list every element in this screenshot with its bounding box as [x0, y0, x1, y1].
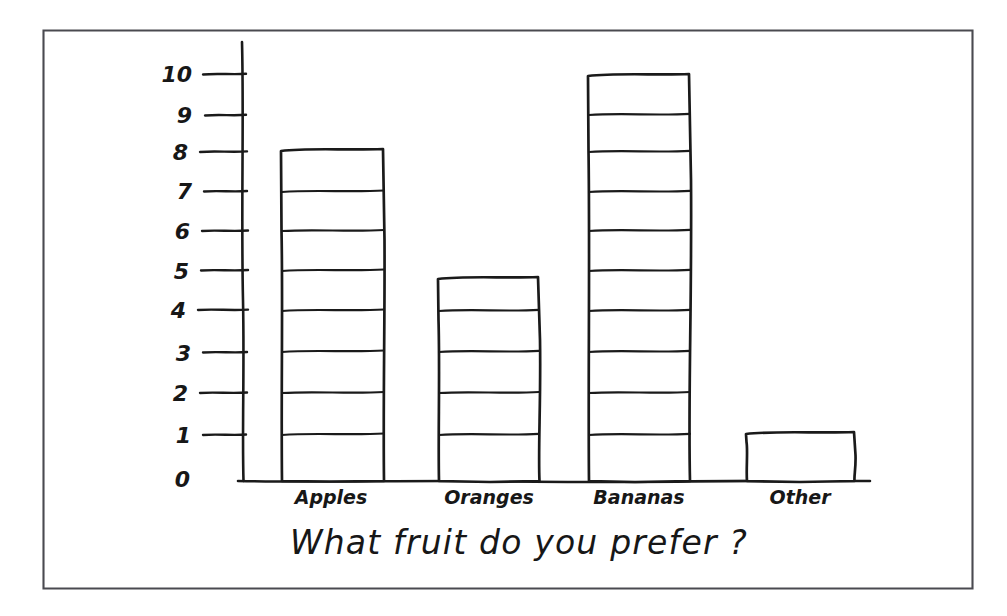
bar-segment-line: [589, 230, 690, 231]
bar-segment-line: [589, 191, 690, 192]
bar-segment-line: [282, 392, 384, 393]
bar-segment-line: [589, 270, 690, 271]
bar-segment-line: [439, 351, 539, 352]
y-tick-label-3: 3: [176, 341, 191, 366]
bar-segment-line: [439, 434, 539, 435]
y-tick-label-4: 4: [170, 298, 186, 323]
bar-segment-line: [282, 230, 384, 231]
category-label-oranges: Oranges: [444, 486, 534, 508]
bar-segment-line: [439, 310, 539, 311]
bar-outline-oranges: [438, 277, 540, 482]
y-tick-label-6: 6: [175, 219, 190, 244]
y-tick-label-9: 9: [177, 103, 192, 128]
y-tick-8: [200, 151, 247, 152]
y-tick-label-1: 1: [176, 423, 191, 448]
bar-segment-line: [589, 310, 690, 311]
bar-bananas: [588, 74, 691, 482]
category-label-apples: Apples: [293, 486, 368, 508]
bar-outline-apples: [281, 149, 385, 482]
chart-title: What fruit do you prefer ?: [290, 523, 748, 562]
bar-segment-line: [282, 191, 384, 193]
bar-outline-other: [746, 432, 856, 482]
y-tick-label-0: 0: [175, 467, 190, 492]
y-tick-7: [204, 191, 247, 192]
y-tick-2: [200, 393, 247, 394]
bar-oranges: [438, 277, 540, 482]
hand-drawn-bar-chart: 10 9 8 7 6 5 4 3 2 1 0: [0, 0, 1007, 616]
bar-outline-bananas: [588, 74, 691, 482]
bar-segment-line: [282, 310, 384, 312]
y-axis-line: [242, 42, 244, 481]
bar-segment-line: [589, 434, 690, 435]
bar-other: [746, 432, 856, 482]
bar-apples: [281, 149, 385, 482]
y-tick-3: [203, 352, 247, 353]
y-tick-5: [201, 270, 248, 271]
bar-segment-line: [589, 392, 690, 393]
y-tick-label-5: 5: [174, 259, 189, 284]
chart-canvas: 10 9 8 7 6 5 4 3 2 1 0: [0, 0, 1007, 616]
bar-segment-line: [589, 114, 690, 115]
y-tick-10: [203, 74, 246, 75]
category-label-other: Other: [769, 486, 832, 508]
y-tick-label-2: 2: [173, 381, 188, 406]
bar-segment-line: [282, 270, 384, 272]
y-tick-label-8: 8: [173, 140, 188, 165]
y-tick-6: [202, 231, 248, 232]
category-label-bananas: Bananas: [593, 486, 684, 508]
bar-segment-line: [282, 351, 384, 353]
y-tick-1: [203, 435, 246, 436]
bar-segment-line: [589, 351, 690, 352]
y-tick-9: [205, 115, 246, 116]
bar-segment-line: [589, 151, 690, 152]
bar-segment-line: [282, 434, 384, 436]
bar-segment-line: [439, 392, 539, 393]
y-tick-label-7: 7: [177, 179, 193, 204]
y-tick-label-10: 10: [161, 62, 192, 87]
